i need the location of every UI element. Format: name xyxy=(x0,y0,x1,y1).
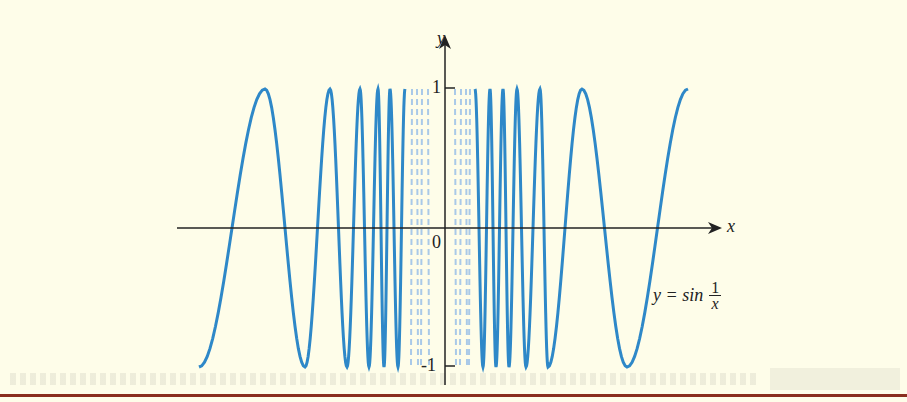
annotation-fraction: 1 x xyxy=(709,280,721,311)
sin-inverse-x-plot xyxy=(0,0,907,402)
bleed-through-text xyxy=(0,368,907,390)
origin-label: 0 xyxy=(432,232,441,253)
y-axis-label: y xyxy=(437,28,445,49)
x-axis-label: x xyxy=(727,216,735,237)
y-tick-label-1: 1 xyxy=(432,77,441,98)
annotation-numerator: 1 xyxy=(709,280,721,296)
annotation-denominator: x xyxy=(712,296,719,311)
annotation-lhs: y = sin xyxy=(653,285,703,306)
function-annotation: y = sin 1 x xyxy=(653,280,721,311)
page-bottom-rule xyxy=(0,394,907,397)
